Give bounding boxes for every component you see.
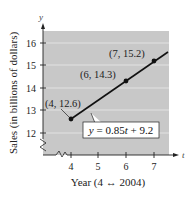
x-tick-label: 4 — [69, 161, 74, 172]
y-axis-arrow — [41, 23, 45, 29]
x-axis-arrow — [173, 153, 179, 157]
y-tick-label: 16 — [26, 38, 36, 49]
y-tick-label: 12 — [26, 128, 36, 139]
data-point — [152, 59, 157, 64]
x-axis-title: Year (4 ↔ 2004) — [71, 176, 146, 189]
point-label: (6, 14.3) — [80, 69, 116, 81]
y-tick-label: 14 — [26, 83, 36, 94]
x-tick-label: 5 — [96, 161, 101, 172]
equation-text: y = 0.85t + 9.2 — [88, 124, 153, 136]
point-label: (7, 15.2) — [109, 48, 145, 60]
point-label: (4, 12.6) — [45, 98, 81, 110]
x-axis-variable: t — [182, 150, 185, 160]
data-point — [69, 117, 74, 122]
x-tick-label: 6 — [124, 161, 129, 172]
y-axis-title: Sales (in billions of dollars) — [7, 32, 20, 155]
x-tick-label: 7 — [152, 161, 157, 172]
y-tick-label: 13 — [26, 105, 36, 116]
y-axis-variable: y — [38, 12, 43, 22]
chart: 16 15 14 13 12 4 5 6 7 y t Sales (in bil… — [0, 0, 191, 202]
data-point — [124, 79, 129, 84]
y-tick-label: 15 — [26, 60, 36, 71]
